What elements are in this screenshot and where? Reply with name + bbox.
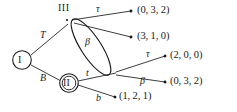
node-III-point xyxy=(66,19,68,21)
edge-beta-upper-line xyxy=(74,23,131,37)
edge-tau-mid-line xyxy=(116,56,165,72)
edge-label-beta-lower: β xyxy=(140,76,145,86)
edge-T-line xyxy=(31,24,68,55)
edge-label-tau-mid: τ xyxy=(146,49,150,59)
edge-label-B: B xyxy=(40,73,46,83)
node-I-circle xyxy=(13,51,32,70)
game-tree-figure: I II III T B t b τ τ β β (0, 3, 2) (3, 1… xyxy=(0,0,237,112)
node-label-III: III xyxy=(58,3,70,13)
payoff-2-0-0: (2, 0, 0) xyxy=(170,50,202,61)
payoff-0-3-2-top: (0, 3, 2) xyxy=(137,5,169,16)
payoff-1-2-1: (1, 2, 1) xyxy=(119,91,151,102)
node-label-I: I xyxy=(18,55,22,65)
payoff-0-3-2-bottom: (0, 3, 2) xyxy=(170,76,202,87)
edge-label-b: b xyxy=(96,93,101,103)
edge-label-T: T xyxy=(40,30,46,40)
payoff-3-1-0: (3, 1, 0) xyxy=(137,31,169,42)
node-label-II: II xyxy=(63,78,70,88)
edge-label-beta-upper: β xyxy=(85,37,90,47)
edge-label-tau-top: τ xyxy=(96,4,100,14)
edge-tau-top-line xyxy=(72,11,131,20)
edge-label-t: t xyxy=(86,68,89,78)
information-set-ellipse xyxy=(65,14,118,80)
